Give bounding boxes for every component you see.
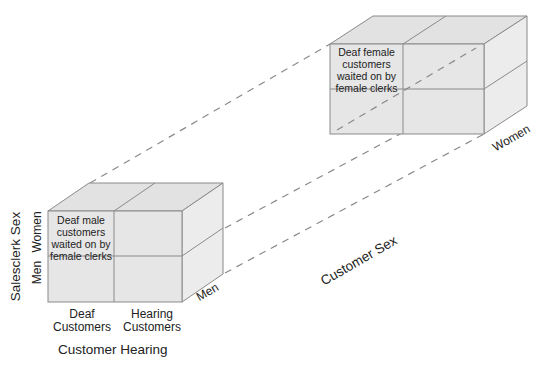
cell-line: customers — [330, 58, 403, 70]
cell-line: Deaf female — [330, 46, 403, 58]
cell-line: waited on by — [48, 238, 114, 250]
y-level-men: Men — [31, 258, 44, 288]
front-highlight-cell: Deaf male customers waited on by female … — [48, 214, 114, 262]
cell-line: female clerks — [48, 250, 114, 262]
cell-line: female clerks — [330, 82, 403, 94]
back-highlight-cell: Deaf female customers waited on by femal… — [330, 46, 403, 94]
y-level-women: Women — [31, 213, 44, 253]
cell-line: waited on by — [330, 70, 403, 82]
x-axis-title: Customer Hearing — [58, 343, 168, 356]
cell-line: customers — [48, 226, 114, 238]
y-axis-title: Salesclerk Sex — [9, 207, 22, 307]
cell-line: Deaf male — [48, 214, 114, 226]
x-level-deaf: DeafCustomers — [50, 308, 114, 334]
x-level-hearing: HearingCustomers — [116, 308, 188, 334]
